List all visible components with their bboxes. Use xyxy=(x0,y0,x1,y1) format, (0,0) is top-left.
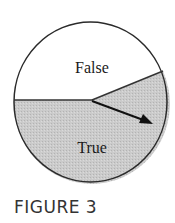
spinner-figure: False True xyxy=(0,0,175,195)
figure-caption: FIGURE 3 xyxy=(14,197,97,217)
true-label: True xyxy=(77,139,107,156)
false-label: False xyxy=(75,59,109,76)
